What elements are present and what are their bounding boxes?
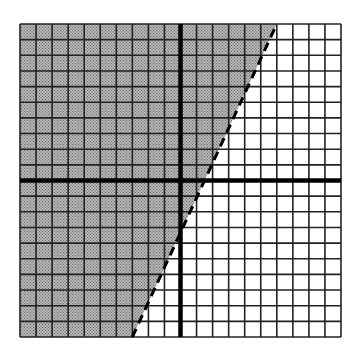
coordinate-grid bbox=[0, 0, 358, 359]
